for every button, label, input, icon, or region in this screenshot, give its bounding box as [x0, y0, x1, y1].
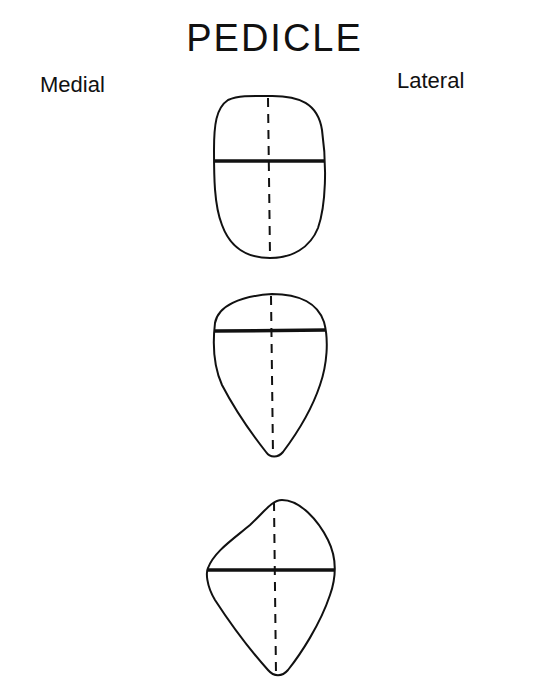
- oval-height-line: [268, 98, 270, 256]
- pedicle-shape-teardrop: [214, 294, 327, 457]
- kite-outline: [207, 500, 335, 675]
- teardrop-height-line: [271, 296, 273, 455]
- kite-height-line: [274, 502, 276, 674]
- pedicle-shape-oval: [214, 96, 325, 258]
- pedicle-shape-kite: [207, 500, 335, 675]
- pedicle-shapes-diagram: [0, 0, 549, 690]
